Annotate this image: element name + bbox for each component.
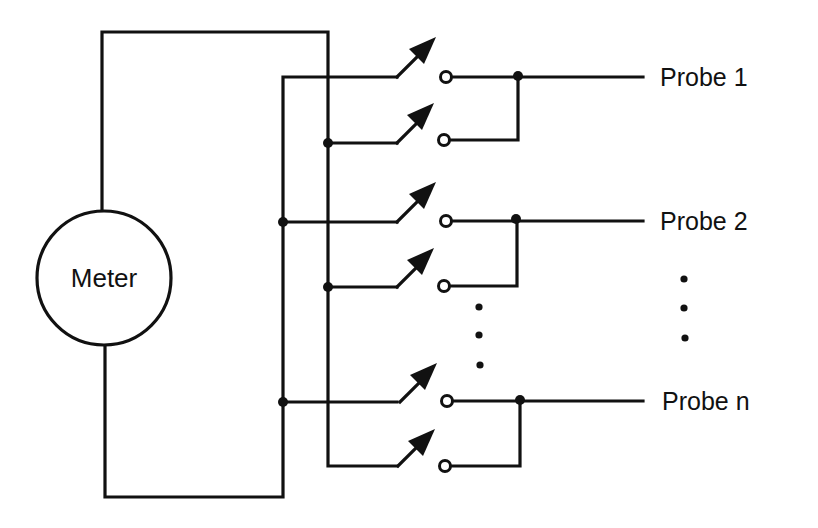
switch-2 bbox=[397, 103, 450, 146]
junction-dot bbox=[278, 397, 288, 407]
switch-contact bbox=[440, 461, 451, 472]
switch-3 bbox=[397, 182, 452, 227]
switch-contact bbox=[439, 281, 450, 292]
switch-6 bbox=[398, 429, 451, 472]
probe-label: Probe 2 bbox=[660, 207, 748, 235]
junction-dot bbox=[323, 282, 333, 292]
switch-5 bbox=[400, 363, 453, 407]
switch-1 bbox=[397, 37, 452, 83]
probe-ellipsis bbox=[680, 275, 688, 341]
switch-contact bbox=[439, 135, 450, 146]
bus-branches bbox=[278, 138, 397, 407]
switch-contact bbox=[442, 396, 453, 407]
junction-dot bbox=[513, 71, 523, 81]
probe-label: Probe 1 bbox=[660, 63, 748, 91]
probe-label: Probe n bbox=[662, 387, 750, 415]
meter: Meter bbox=[37, 211, 171, 345]
probe-2-output: Probe 2 bbox=[450, 207, 748, 286]
junction-dot bbox=[515, 395, 525, 405]
switch-arrow-icon bbox=[407, 103, 434, 130]
meter-label: Meter bbox=[71, 263, 138, 293]
circuit-diagram: Meter bbox=[0, 0, 818, 528]
switch-contact bbox=[441, 72, 452, 83]
junction-dot bbox=[278, 217, 288, 227]
probe-n-output: Probe n bbox=[451, 387, 750, 466]
switch-4 bbox=[397, 248, 450, 292]
switch-contact bbox=[441, 216, 452, 227]
switch-ellipsis bbox=[475, 303, 483, 368]
junction-dot bbox=[323, 138, 333, 148]
junction-dot bbox=[511, 214, 521, 224]
probe-1-output: Probe 1 bbox=[450, 63, 748, 140]
